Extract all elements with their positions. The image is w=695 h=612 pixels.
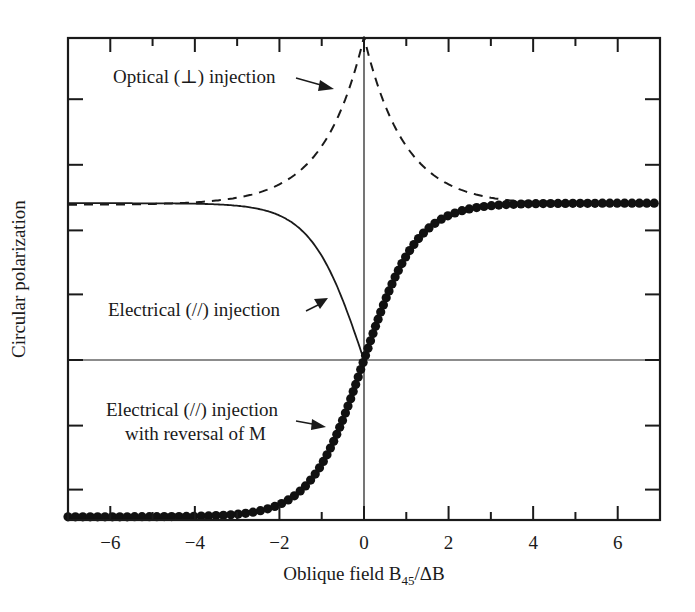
x-axis-label: Oblique field B45/ΔB: [283, 563, 444, 588]
x-tick-label: 4: [528, 532, 538, 553]
annotation-electrical-injection: Electrical (//) injection: [108, 299, 280, 321]
x-tick-label: 2: [444, 532, 454, 553]
annotation-reversal-line1: Electrical (//) injection: [106, 399, 278, 421]
y-axis-label: Circular polarization: [8, 200, 29, 358]
x-tick-label: −6: [100, 532, 120, 553]
annotation-reversal-line2: with reversal of M: [125, 423, 266, 444]
annotations: Optical (⊥) injection Electrical (//) in…: [106, 66, 334, 444]
chart: −6−4−20246 Oblique field B45/ΔB Circular…: [0, 0, 695, 612]
plot-area: [63, 37, 660, 522]
series-electrical-injection: [68, 203, 364, 360]
reference-lines: [68, 38, 660, 520]
data-point: [650, 199, 659, 208]
x-tick-label: 6: [613, 532, 623, 553]
x-tick-labels: −6−4−20246: [100, 532, 622, 553]
x-tick-label: 0: [359, 532, 369, 553]
electrical-injection-curve: [68, 203, 364, 360]
arrowhead-icon: [318, 80, 334, 91]
x-tick-label: −2: [269, 532, 289, 553]
arrowhead-icon: [314, 298, 328, 309]
arrowhead-icon: [311, 419, 326, 430]
x-tick-label: −4: [185, 532, 206, 553]
annotation-optical-injection: Optical (⊥) injection: [113, 66, 276, 88]
